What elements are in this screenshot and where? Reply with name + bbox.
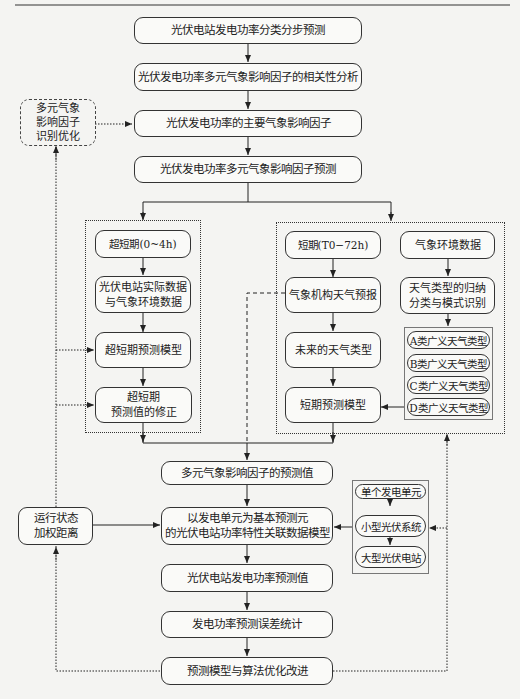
node-factor-forecast: 光伏发电功率多元气象影响因子预测 xyxy=(134,156,362,183)
node-correlation-analysis: 光伏发电功率多元气象影响因子的相关性分析 xyxy=(134,63,362,91)
node-main-factors: 光伏发电功率的主要气象影响因子 xyxy=(134,110,362,137)
unit-small-pv-system: 小型光伏系统 xyxy=(355,515,426,537)
unit-large-pv-station: 大型光伏电站 xyxy=(355,546,426,568)
node-short-term-model: 短期预测模型 xyxy=(285,387,381,423)
node-weather-forecast: 气象机构天气预报 xyxy=(285,277,381,313)
weather-type-c: C类广义天气类型 xyxy=(407,376,490,394)
unit-single-generation-unit: 单个发电单元 xyxy=(355,484,426,499)
node-ultra-short-model: 超短期预测模型 xyxy=(95,332,191,368)
node-factor-forecast-values: 多元气象影响因子的预测值 xyxy=(161,461,333,485)
weather-type-d: D类广义天气类型 xyxy=(407,398,490,416)
node-actual-and-weather-data: 光伏电站实际数据 与气象环境数据 xyxy=(95,276,191,313)
node-short-term: 短期(T0−72h) xyxy=(285,231,381,259)
node-future-weather-type: 未来的天气类型 xyxy=(285,332,381,368)
weather-type-b: B类广义天气类型 xyxy=(407,354,490,372)
node-power-forecast-value: 光伏电站发电功率预测值 xyxy=(161,564,333,592)
node-correlation-data-model: 以发电单元为基本预测元 的光伏电站功率特性关联数据模型 xyxy=(161,507,333,545)
node-weather-pattern-recognition: 天气类型的归纳 分类与模式识别 xyxy=(400,277,495,314)
weather-type-a: A类广义天气类型 xyxy=(407,331,490,349)
node-classified-forecast: 光伏电站发电功率分类分步预测 xyxy=(134,17,362,44)
node-weather-env-data: 气象环境数据 xyxy=(400,231,495,259)
node-error-statistics: 发电功率预测误差统计 xyxy=(161,611,333,638)
node-model-optimization: 预测模型与算法优化改进 xyxy=(161,657,333,685)
node-weighted-distance: 运行状态 加权距离 xyxy=(18,507,93,545)
node-ultra-short-correction: 超短期 预测值的修正 xyxy=(95,387,192,423)
node-ultra-short-term: 超短期(0~4h) xyxy=(95,230,191,258)
node-factor-identification-optimization: 多元气象 影响因子 识别优化 xyxy=(20,99,96,146)
